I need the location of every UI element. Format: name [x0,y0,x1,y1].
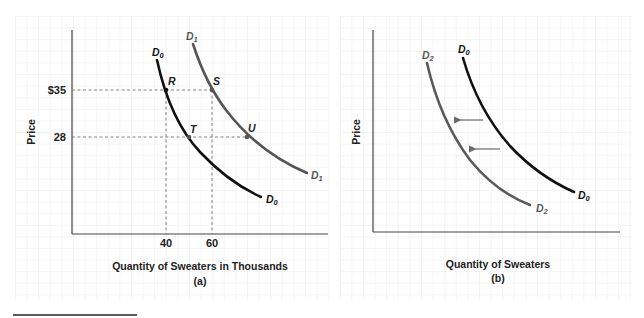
x-axis-title-a: Quantity of Sweaters in Thousands [112,260,288,272]
x-tick-40: 40 [160,237,172,249]
y-tick-35: $35 [48,84,66,96]
point-label-u: U [248,122,256,134]
grid-panel-a [15,16,329,300]
y-axis-title-b: Price [350,119,362,145]
point-label-r: R [168,75,176,87]
caption-a: (a) [194,275,207,287]
point-label-s: S [213,75,220,87]
point-t [187,135,192,140]
caption-b: (b) [491,272,504,284]
point-r [164,88,169,93]
x-tick-60: 60 [206,237,218,249]
demand-shift-figure: R S T U D0 D1 D0 D1 $35 28 40 60 Price Q… [0,0,644,318]
y-axis-title-a: Price [25,119,37,145]
point-s [210,88,215,93]
y-tick-28: 28 [54,131,66,143]
x-axis-title-b: Quantity of Sweaters [446,258,551,270]
point-u [245,135,250,140]
